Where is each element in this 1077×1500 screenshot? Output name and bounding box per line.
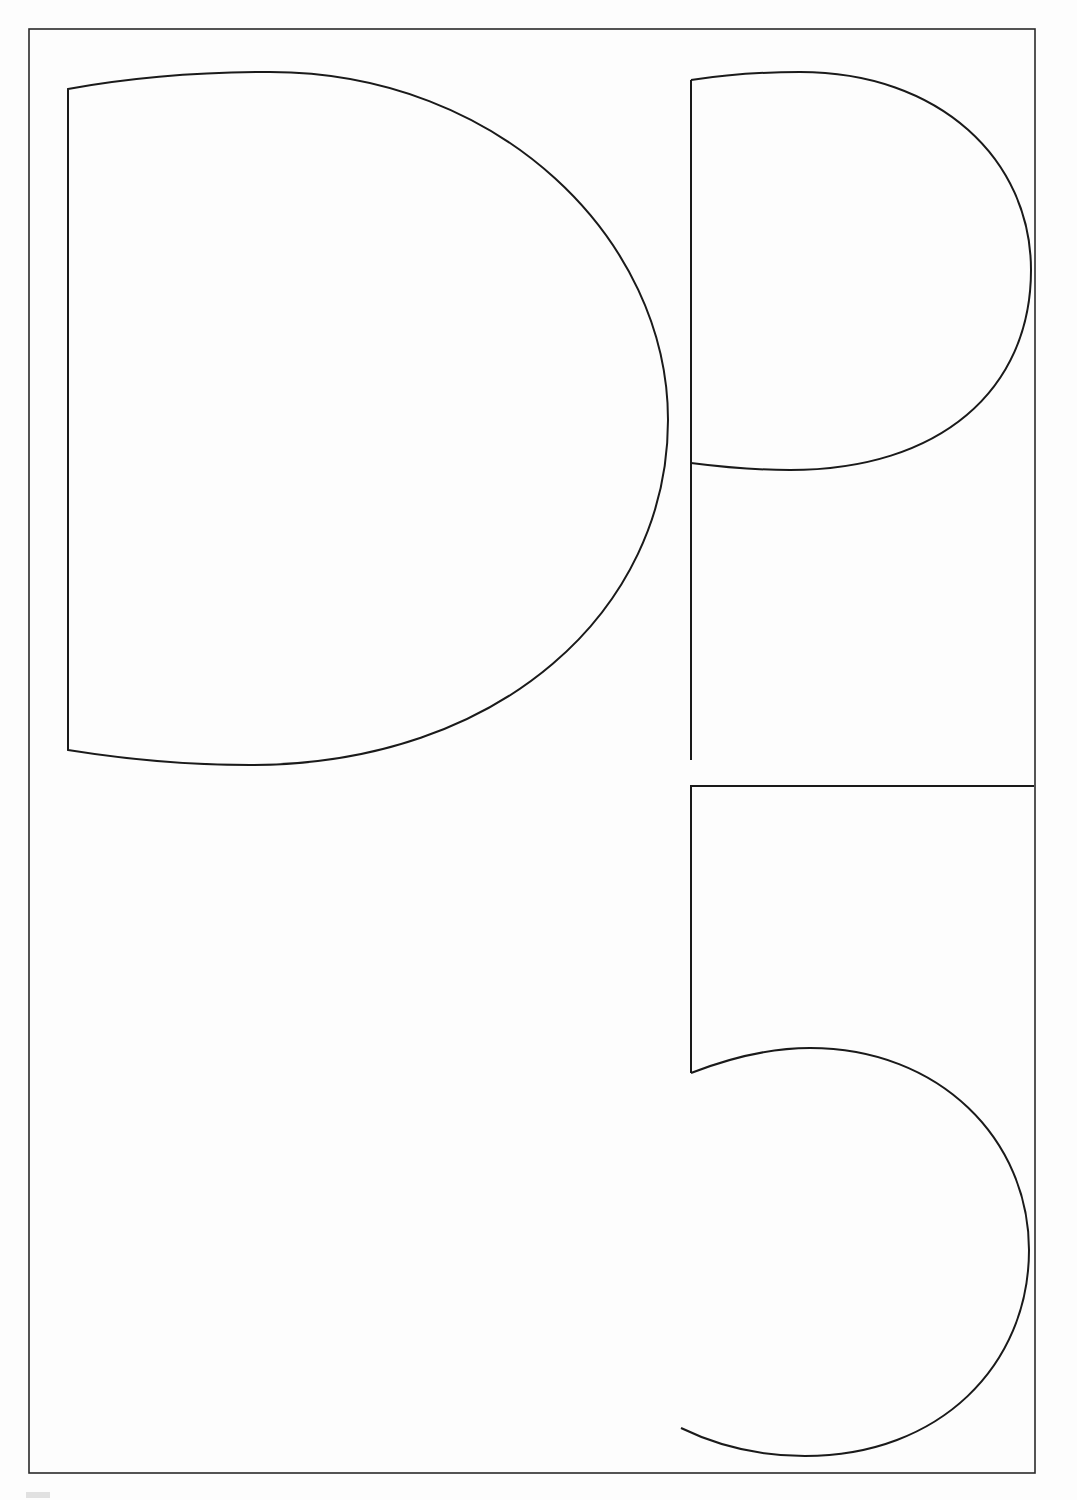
glyph-5-top-bar	[691, 786, 1034, 1073]
scan-artifact-mark	[26, 1492, 50, 1498]
document-page: Line-art letterforms D, P and 5 inside a…	[0, 0, 1077, 1500]
letterform-artwork	[0, 0, 1077, 1500]
glyph-d-outline	[68, 72, 668, 765]
glyph-p-bowl	[691, 72, 1031, 470]
page-frame	[29, 29, 1035, 1473]
glyph-5-bowl	[681, 1048, 1029, 1456]
